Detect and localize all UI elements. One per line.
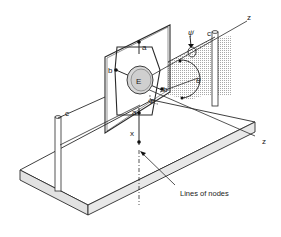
left-post <box>55 116 61 191</box>
label-a-bottom: a <box>132 108 137 117</box>
node-x <box>137 140 141 144</box>
pivot-a-bottom <box>137 111 141 115</box>
caption-lines-of-nodes: Lines of nodes <box>180 189 229 198</box>
pivot-b-left <box>114 68 118 72</box>
label-z-top: z <box>247 13 251 22</box>
shaded-plane <box>168 36 232 100</box>
gyroscope-apparatus-diagram: z z a a b b c c E θ Φ ψ̇ x Lines of node… <box>0 0 281 237</box>
label-x: x <box>130 129 134 138</box>
label-b-left: b <box>108 66 113 75</box>
label-E: E <box>136 77 141 86</box>
right-post <box>212 31 218 106</box>
label-psi-dot: ψ̇ <box>188 28 195 37</box>
label-a-top: a <box>142 43 147 52</box>
label-theta: θ <box>196 76 201 85</box>
label-phi: Φ <box>148 97 155 106</box>
label-z-bottom: z <box>262 137 266 146</box>
label-c-left: c <box>65 109 69 118</box>
label-c-right: c <box>207 29 211 38</box>
pivot-a-top <box>137 40 141 44</box>
label-b-right: b <box>163 85 168 94</box>
